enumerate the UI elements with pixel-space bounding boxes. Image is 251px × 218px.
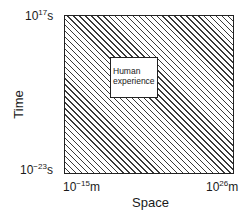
- inner-label-line1: Human: [113, 66, 155, 76]
- time-min-unit: s: [47, 163, 53, 177]
- time-max-unit: s: [47, 9, 53, 23]
- time-max-base: 10: [25, 9, 38, 23]
- space-max-unit: m: [228, 180, 238, 194]
- space-min-exponent: −15: [76, 179, 90, 188]
- time-min-exponent: −23: [33, 162, 47, 171]
- space-axis-title: Space: [132, 196, 169, 209]
- human-experience-label: Human experience: [113, 66, 155, 86]
- space-min-label: 10−15m: [63, 181, 100, 193]
- space-max-label: 1026m: [206, 181, 238, 193]
- time-max-label: 1017s: [25, 10, 53, 22]
- human-experience-region: Human experience: [110, 57, 158, 98]
- inner-label-line2: experience: [113, 76, 155, 86]
- time-space-diagram: Human experience 1017s 10−23s Time 10−15…: [0, 0, 251, 218]
- time-max-exponent: 17: [38, 8, 47, 17]
- space-min-base: 10: [63, 180, 76, 194]
- time-min-label: 10−23s: [20, 164, 53, 176]
- space-max-base: 10: [206, 180, 219, 194]
- time-min-base: 10: [20, 163, 33, 177]
- time-axis-title: Time: [12, 90, 25, 118]
- space-max-exponent: 26: [219, 179, 228, 188]
- space-min-unit: m: [90, 180, 100, 194]
